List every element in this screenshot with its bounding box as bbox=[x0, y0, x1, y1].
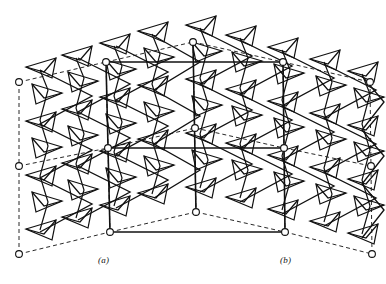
cell-corner-circle bbox=[193, 209, 200, 216]
crystal-structure-figure: (a) (b) bbox=[0, 0, 386, 284]
cell-corner-circle bbox=[16, 79, 23, 86]
panel-label-b: (b) bbox=[280, 255, 291, 265]
cell-corner-circle bbox=[16, 163, 23, 170]
structure-drawing bbox=[0, 0, 386, 284]
cell-corner-circle bbox=[105, 145, 112, 152]
cell-corner-circle bbox=[16, 251, 23, 258]
tetrahedral-chain-group-a bbox=[26, 22, 174, 240]
zigzag-connector-group-a bbox=[40, 36, 200, 232]
cell-corner-circle bbox=[280, 59, 287, 66]
cell-corner-circle bbox=[192, 125, 199, 132]
panel-label-a: (a) bbox=[98, 255, 109, 265]
cell-corner-circle bbox=[368, 163, 375, 170]
tetrahedral-chain bbox=[310, 50, 346, 232]
cell-corner-circle bbox=[367, 79, 374, 86]
cell-corner-circle bbox=[190, 39, 197, 46]
tetrahedral-chain bbox=[26, 58, 62, 240]
cell-corner-circle bbox=[107, 229, 114, 236]
cell-corner-circle bbox=[103, 59, 110, 66]
cell-corner-circle bbox=[281, 145, 288, 152]
cell-corner-circle bbox=[369, 251, 376, 258]
cell-corner-circle bbox=[282, 229, 289, 236]
